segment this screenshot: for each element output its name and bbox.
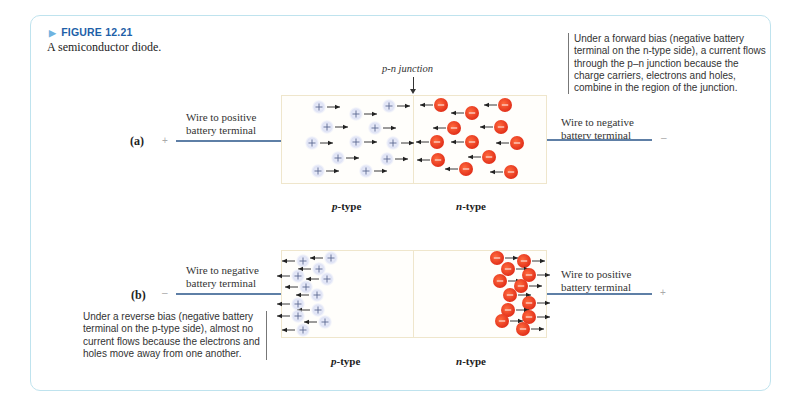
hole-icon: [368, 121, 396, 135]
hole-icon: [310, 251, 338, 265]
electron-icon: [451, 106, 479, 120]
hole-icon: [349, 107, 377, 121]
hole-icon: [277, 269, 305, 283]
electron-icon: [468, 150, 496, 164]
electron-icon: [522, 268, 550, 282]
hole-icon: [320, 120, 348, 134]
electron-icon: [416, 135, 444, 149]
hole-icon: [282, 323, 310, 337]
hole-icon: [331, 151, 359, 165]
hole-icon: [311, 164, 339, 178]
hole-icon: [312, 100, 340, 114]
hole-icon: [382, 99, 410, 113]
electron-icon: [420, 98, 448, 112]
electron-icon: [496, 136, 524, 150]
hole-icon: [282, 254, 310, 268]
electron-icon: [522, 310, 550, 324]
electron-icon: [445, 162, 473, 176]
electron-icon: [517, 254, 545, 268]
electron-icon: [490, 251, 518, 265]
hole-icon: [277, 297, 305, 311]
hole-icon: [359, 164, 387, 178]
electron-icon: [433, 121, 461, 135]
hole-icon: [305, 136, 333, 150]
hole-icon: [380, 152, 408, 166]
electron-icon: [516, 322, 544, 336]
electron-icon: [484, 98, 512, 112]
electron-icon: [451, 135, 479, 149]
electron-icon: [417, 153, 445, 167]
electron-icon: [490, 165, 518, 179]
electron-icon: [480, 120, 508, 134]
hole-icon: [386, 136, 414, 150]
hole-icon: [349, 135, 377, 149]
charge-carriers-layer: [0, 0, 803, 414]
hole-icon: [277, 309, 305, 323]
electron-icon: [522, 296, 550, 310]
